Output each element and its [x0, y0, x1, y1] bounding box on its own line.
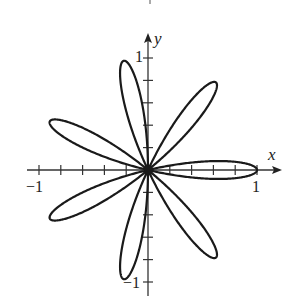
- x-axis-label: x: [267, 145, 276, 164]
- x-tick-label-neg-one: −1: [26, 178, 43, 195]
- x-axis: [27, 165, 282, 175]
- y-tick-label-pos-one: 1: [135, 48, 143, 65]
- y-tick-label-neg-one: −1: [123, 274, 140, 291]
- x-tick-label-pos-one: 1: [252, 178, 260, 195]
- polar-rose-chart: x y 1 −1 1 −1: [0, 0, 283, 304]
- y-axis-label: y: [152, 29, 162, 48]
